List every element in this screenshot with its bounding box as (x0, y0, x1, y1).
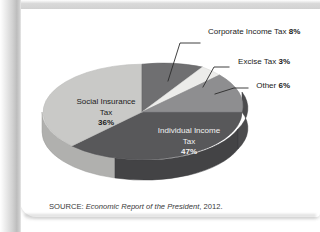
callout-corporate-line2: Tax (274, 27, 289, 36)
callout-other-percent: 6% (278, 81, 290, 90)
callout-excise-percent: 3% (278, 57, 290, 66)
callout-other-line1: Other (256, 81, 276, 90)
slice-label-social-insurance-tax: Social Insurance Tax 36% (64, 97, 148, 129)
figure-screenshot: Corporate Income Tax 8% Excise Tax 3% Ot… (0, 0, 320, 232)
slice-label-individual-line1: Individual Income (146, 126, 232, 137)
callout-excise-line1: Excise Tax (238, 57, 276, 66)
slice-label-individual-line2: Tax (146, 137, 232, 148)
pie-chart: Corporate Income Tax 8% Excise Tax 3% Ot… (20, 9, 320, 217)
slice-label-individual-percent: 47% (146, 147, 232, 158)
callout-corporate-percent: 8% (289, 27, 301, 36)
page-top-band (0, 0, 320, 9)
figure-source-note: SOURCE: Economic Report of the President… (49, 202, 223, 211)
callout-other: Other 6% (244, 81, 290, 91)
page-gutter-shadow (0, 0, 21, 232)
source-title: Economic Report of the President (86, 202, 200, 211)
callout-corporate-income-tax: Corporate Income Tax 8% (208, 27, 290, 37)
source-prefix: SOURCE: (49, 202, 84, 211)
slice-label-individual-income-tax: Individual Income Tax 47% (146, 126, 232, 158)
slice-label-social-percent: 36% (64, 118, 148, 129)
slice-label-social-line2: Tax (64, 108, 148, 119)
callout-corporate-line1: Corporate Income (208, 27, 272, 36)
callout-excise-tax: Excise Tax 3% (228, 57, 290, 67)
source-suffix: , 2012. (199, 202, 222, 211)
slice-label-social-line1: Social Insurance (64, 97, 148, 108)
